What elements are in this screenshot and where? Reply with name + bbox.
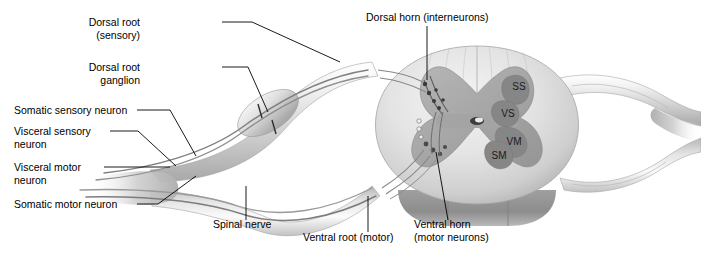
label-nucleus-ss: SS bbox=[512, 81, 526, 92]
label-ventral-root: Ventral root (motor) bbox=[303, 231, 393, 243]
spinal-cord-cross-section bbox=[376, 46, 579, 226]
central-canal-lumen bbox=[475, 118, 483, 123]
label-visceral-motor-neuron-line2: neuron bbox=[14, 174, 47, 186]
label-somatic-motor-neuron: Somatic motor neuron bbox=[14, 198, 117, 210]
label-spinal-nerve: Spinal nerve bbox=[213, 218, 272, 230]
label-nucleus-vm: VM bbox=[507, 136, 522, 147]
spinal-cord-diagram: Dorsal root (sensory) Dorsal root gangli… bbox=[0, 0, 701, 258]
label-dorsal-root-line1: Dorsal root bbox=[89, 16, 140, 28]
label-somatic-sensory-neuron: Somatic sensory neuron bbox=[14, 104, 127, 116]
label-ventral-horn-line2: (motor neurons) bbox=[414, 231, 489, 243]
label-ventral-horn-line1: Ventral horn bbox=[414, 218, 471, 230]
label-dorsal-root-ganglion-line1: Dorsal root bbox=[89, 61, 140, 73]
label-dorsal-horn: Dorsal horn (interneurons) bbox=[366, 11, 489, 23]
label-dorsal-root-line2: (sensory) bbox=[96, 29, 140, 41]
label-nucleus-vs: VS bbox=[501, 108, 515, 119]
label-visceral-motor-neuron-line1: Visceral motor bbox=[14, 161, 81, 173]
label-dorsal-root-ganglion-line2: ganglion bbox=[100, 74, 140, 86]
label-visceral-sensory-neuron-line2: neuron bbox=[14, 138, 47, 150]
label-visceral-sensory-neuron-line1: Visceral sensory bbox=[14, 125, 92, 137]
label-nucleus-sm: SM bbox=[492, 150, 507, 161]
